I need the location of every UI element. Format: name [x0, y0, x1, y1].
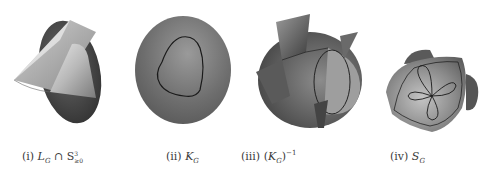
caption-ii: (ii) KG — [166, 150, 199, 163]
panel-ii: (ii) KG — [120, 0, 245, 179]
caption-subscript: G — [45, 157, 51, 165]
caption-iii: (iii) (KG)−1 — [241, 150, 296, 163]
caption-subscript: G — [193, 157, 199, 165]
caption-iv: (iv) SG — [390, 150, 425, 163]
caption-label: (i) — [22, 150, 34, 163]
caption-label: (ii) — [166, 150, 182, 163]
caption-label: (iii) — [241, 150, 260, 163]
panel-iii: (iii) (KG)−1 — [240, 0, 370, 179]
tetrahedral-surface-illustration — [370, 0, 492, 140]
panel-i: (i) LG ∩ S3≥0 — [0, 0, 125, 179]
caption-i: (i) LG ∩ S3≥0 — [22, 150, 83, 164]
caption-subscript: G — [419, 157, 425, 165]
disk-curve-illustration — [120, 0, 245, 140]
caption-operator: ∩ — [54, 150, 63, 163]
caption-symbol: K — [268, 150, 276, 163]
caption-set-subscript: ≥0 — [74, 157, 83, 164]
caption-set-superscript: 3 — [74, 150, 83, 157]
cone-sphere-illustration — [0, 0, 125, 140]
caption-symbol: L — [38, 150, 45, 163]
caption-superscript: −1 — [286, 149, 296, 157]
panel-iv: (iv) SG — [370, 0, 492, 179]
caption-label: (iv) — [390, 150, 408, 163]
sphere-fins-illustration — [240, 0, 370, 140]
caption-set: S — [67, 150, 75, 163]
